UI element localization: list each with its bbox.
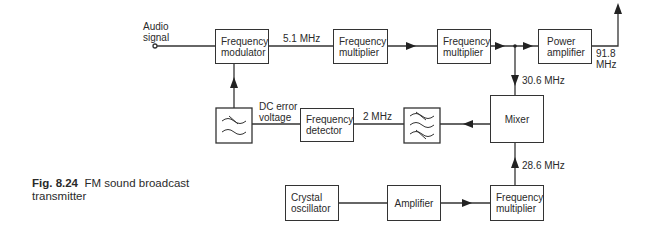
frequency-detector-block: Frequency detector [300,108,354,142]
audio-signal-label: Audio signal [143,21,169,43]
frequency-multiplier-3-block: Frequency multiplier [490,185,544,221]
crystal-oscillator-block: Crystal oscillator [285,185,339,221]
figure-number: Fig. 8.24 [32,177,78,189]
power-amplifier-block: Power amplifier [538,29,592,64]
frequency-multiplier-2-block: Frequency multiplier [437,29,491,64]
freq-91-8-label: 91.8 MHz [596,48,617,70]
frequency-multiplier-1-block: Frequency multiplier [333,29,388,64]
freq-28-6-label: 28.6 MHz [522,160,565,171]
dc-error-voltage-label: DC error voltage [259,101,297,123]
freq-2-label: 2 MHz [363,111,392,122]
freq-5-1-label: 5.1 MHz [283,33,320,44]
mixer-block: Mixer [490,95,544,143]
amplifier-block: Amplifier [387,185,441,221]
freq-30-6-label: 30.6 MHz [522,75,565,86]
figure-caption: Fig. 8.24 FM sound broadcast transmitter [32,177,189,203]
frequency-modulator-block: Frequency modulator [215,29,269,64]
lowpass-filter-box [216,108,252,143]
